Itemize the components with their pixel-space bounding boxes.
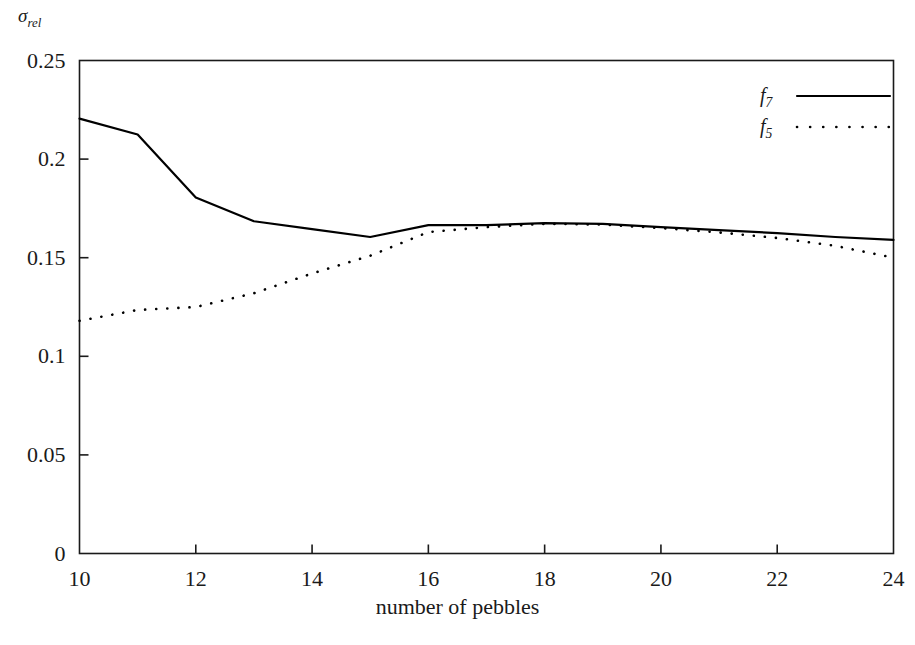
y-tick-label: 0.1	[0, 345, 66, 367]
y-tick-label: 0.05	[0, 444, 66, 466]
x-axis-title: number of pebbles	[0, 596, 915, 618]
series-line-f5	[80, 224, 894, 321]
axis-ticks	[80, 159, 778, 553]
x-tick-label: 24	[854, 568, 915, 590]
x-tick-label: 18	[505, 568, 585, 590]
legend-label-subscript: 5	[766, 126, 773, 141]
legend-label-f7: f7	[760, 85, 772, 110]
x-tick-label: 20	[621, 568, 701, 590]
y-tick-label: 0.2	[0, 148, 66, 170]
x-tick-label: 12	[156, 568, 236, 590]
x-tick-label: 16	[388, 568, 468, 590]
y-axis-title-base: σ	[18, 5, 27, 26]
y-tick-label: 0.25	[0, 50, 66, 72]
x-tick-label: 14	[272, 568, 352, 590]
x-tick-label: 10	[40, 568, 120, 590]
data-series-group	[80, 119, 894, 321]
legend-label-f5: f5	[760, 116, 772, 141]
chart-figure: σrel 00.050.10.150.20.25 101214161820222…	[0, 0, 915, 645]
y-tick-label: 0.15	[0, 247, 66, 269]
y-axis-title: σrel	[18, 6, 41, 30]
y-tick-label: 0	[0, 543, 66, 565]
plot-canvas	[0, 0, 915, 645]
y-axis-title-subscript: rel	[27, 15, 41, 30]
x-tick-label: 22	[737, 568, 817, 590]
legend-samples	[797, 96, 890, 127]
legend-label-subscript: 7	[766, 95, 773, 110]
